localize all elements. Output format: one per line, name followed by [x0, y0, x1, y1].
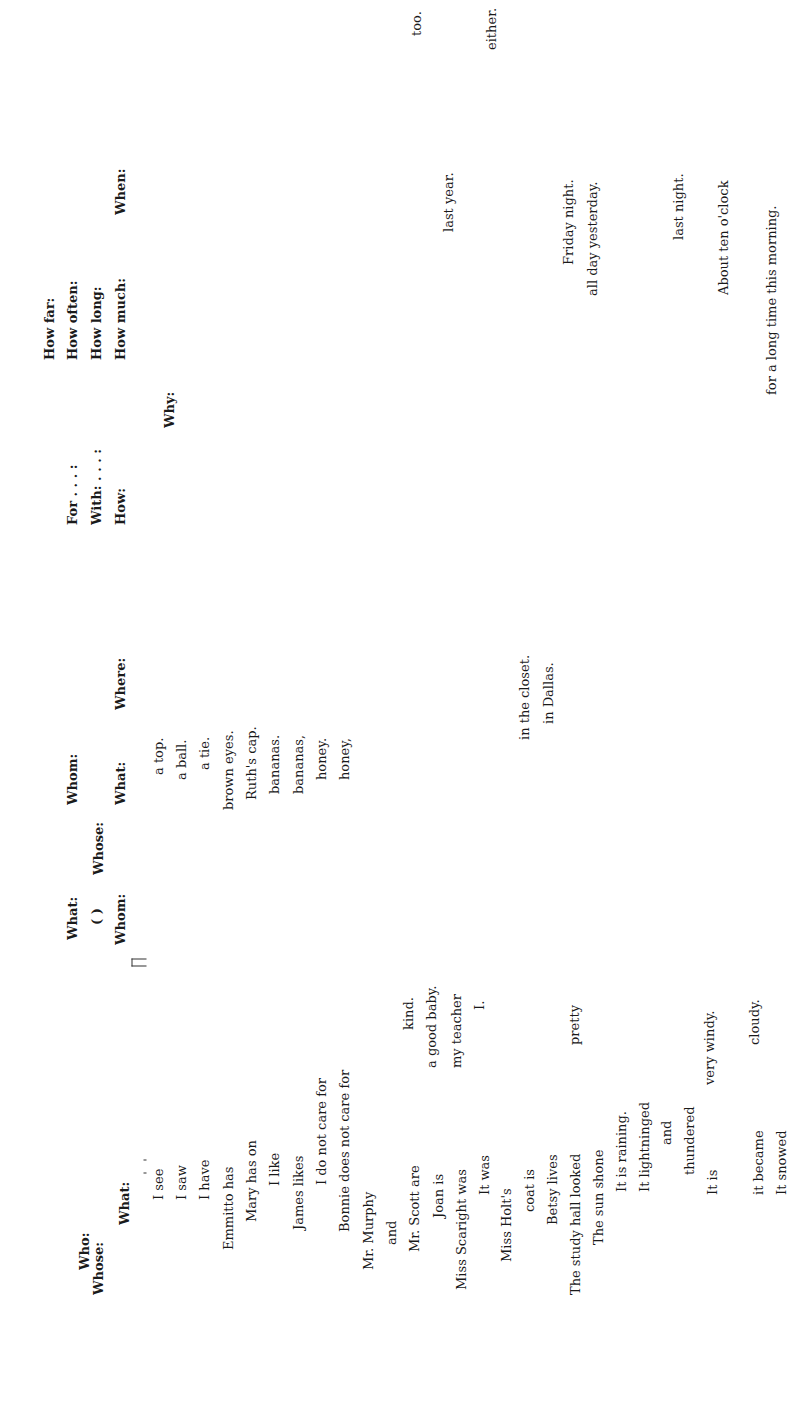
complement-pretty: pretty [568, 1005, 581, 1045]
complement-kind: kind. [402, 997, 415, 1030]
complement-cloudy: cloudy. [748, 999, 761, 1045]
complement-very-windy: very windy. [703, 1011, 716, 1085]
time-ten: About ten o'clock [717, 180, 730, 295]
subject-10: and [385, 1221, 398, 1245]
subject-15: Miss Holt's [500, 1188, 513, 1262]
header-whom: Whom: [114, 894, 127, 945]
subject-8: Bonnie does not care for [338, 1070, 351, 1232]
subject-13: Miss Scaright was [455, 1169, 468, 1290]
subject-20: It is raining. [615, 1111, 628, 1192]
header-whose-2: Whose: [92, 822, 105, 875]
object-0: a top. [152, 738, 165, 775]
header-for: For . . . : [66, 464, 79, 525]
subject-4: Mary has on [245, 1140, 258, 1222]
header-whose: Whose: [92, 1242, 105, 1295]
header-when: When: [114, 168, 127, 215]
object-4: Ruth's cap. [245, 726, 258, 800]
place-closet: in the closet. [518, 655, 531, 740]
time-friday: Friday night. [562, 179, 575, 265]
header-what: What: [118, 1182, 131, 1225]
object-1: a ball. [175, 740, 188, 780]
object-8: honey, [338, 738, 351, 780]
subject-0: I see [152, 1169, 165, 1200]
subject-16: coat is [523, 1169, 536, 1212]
subject-12: Joan is [432, 1174, 445, 1218]
complement-i: I. [473, 1001, 486, 1010]
place-dallas: in Dallas. [542, 662, 555, 724]
header-how-much: How much: [114, 278, 127, 360]
subject-5: I like [268, 1153, 281, 1186]
header-whom-2: Whom: [66, 754, 79, 805]
header-with: With: . . . : [90, 449, 103, 525]
subject-25: it became [752, 1130, 765, 1195]
subject-11: Mr. Scott are [408, 1165, 421, 1252]
subject-21: It lightninged [638, 1102, 651, 1192]
equals-mark [144, 1160, 147, 1174]
time-last-night: last night. [672, 173, 685, 240]
subject-14: It was [478, 1155, 491, 1195]
subject-3: Emmitto has [222, 1166, 235, 1250]
time-last-year: last year. [442, 172, 455, 232]
object-2: a tie. [198, 737, 211, 770]
header-how-far: How far: [43, 298, 56, 360]
subject-22: and [660, 1121, 673, 1145]
bracket-mark [132, 959, 147, 967]
complement-good-baby: a good baby. [425, 986, 438, 1068]
subject-1: I saw [175, 1165, 188, 1200]
complement-my-teacher: my teacher [450, 994, 463, 1068]
header-who: Who: [78, 1232, 91, 1270]
object-5: bananas. [268, 735, 281, 794]
header-how-often: How often: [66, 281, 79, 360]
subject-23: thundered [683, 1106, 696, 1175]
header-why: Why: [163, 392, 176, 428]
object-7: honey. [315, 738, 328, 780]
header-what-3: What: [114, 762, 127, 805]
subject-6: James likes [292, 1156, 305, 1230]
time-all-day: all day yesterday. [586, 182, 599, 296]
header-paren: ( ) [90, 908, 103, 925]
subject-2: I have [198, 1160, 211, 1200]
subject-9: Mr. Murphy [362, 1192, 375, 1270]
header-what-2: What: [66, 897, 79, 940]
time-long-time: for a long time this morning. [765, 206, 778, 396]
adverb-too: too. [410, 11, 423, 36]
object-3: brown eyes. [222, 730, 235, 810]
subject-18: The study hall looked [569, 1154, 582, 1295]
subject-7: I do not care for [315, 1078, 328, 1185]
object-6: bananas, [292, 735, 305, 794]
header-how: How: [114, 488, 127, 525]
subject-19: The sun shone [592, 1150, 605, 1245]
header-where: Where: [114, 658, 127, 710]
adverb-either: either. [485, 8, 498, 50]
subject-17: Betsy lives [546, 1154, 559, 1225]
subject-24: It is [706, 1170, 719, 1195]
header-how-long: How long: [90, 286, 103, 360]
subject-26: It snowed [775, 1130, 788, 1195]
